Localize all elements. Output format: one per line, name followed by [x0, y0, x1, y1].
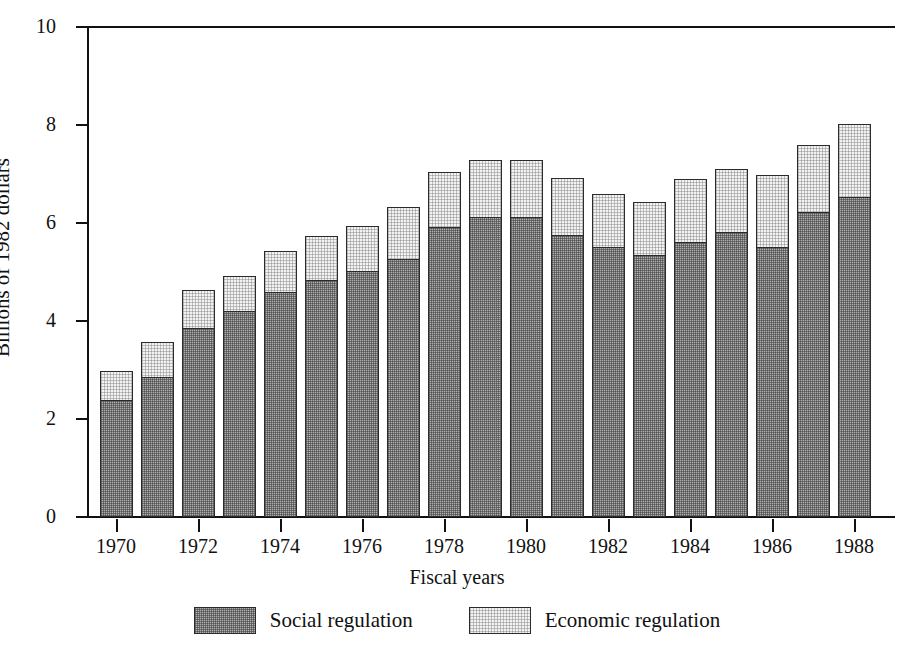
x-axis-tick-label: 1970 [96, 535, 136, 557]
bar-segment-social [100, 399, 133, 517]
bar-segment-social [838, 197, 871, 517]
y-axis-label: Billions of 1982 dollars [0, 0, 15, 518]
bar-segment-economic [797, 145, 830, 213]
bar-group [223, 27, 256, 517]
bar-group [674, 27, 707, 517]
bar-segment-social [223, 311, 256, 517]
y-axis-tick-label: 2 [16, 408, 56, 428]
bar-group [551, 27, 584, 517]
bar-segment-social [141, 377, 174, 517]
bar-segment-social [510, 216, 543, 517]
legend-item[interactable]: Social regulation [194, 607, 413, 634]
bar-segment-social [715, 231, 748, 517]
bar-segment-economic [838, 124, 871, 199]
bar-segment-economic [469, 160, 502, 218]
bar-group [141, 27, 174, 517]
bar-group [592, 27, 625, 517]
bar-group [756, 27, 789, 517]
x-axis-tick [690, 519, 692, 532]
plot-area: 0246810197019721974197619781980198219841… [88, 27, 894, 517]
bar-segment-social [633, 254, 666, 517]
bar-segment-economic [141, 342, 174, 379]
y-axis-tick-label: 10 [16, 16, 56, 36]
bar-segment-economic [551, 178, 584, 236]
bar-group [510, 27, 543, 517]
x-axis-tick-label: 1978 [424, 535, 464, 557]
x-axis-tick [854, 519, 856, 532]
bar-group [346, 27, 379, 517]
x-axis-tick-label: 1980 [506, 535, 546, 557]
bar-segment-social [182, 327, 215, 517]
x-axis-tick [608, 519, 610, 532]
bar-segment-social [264, 292, 297, 517]
y-axis-tick [76, 124, 88, 126]
legend-item[interactable]: Economic regulation [469, 607, 721, 634]
y-axis-tick [76, 26, 88, 28]
bar-segment-social [428, 226, 461, 517]
bar-segment-economic [715, 169, 748, 233]
x-axis-tick [280, 519, 282, 532]
bar-segment-economic [633, 202, 666, 256]
x-axis-tick-label: 1976 [342, 535, 382, 557]
bar-segment-social [756, 246, 789, 517]
x-axis-tick [526, 519, 528, 532]
chart-legend: Social regulationEconomic regulation [0, 607, 914, 634]
bar-segment-economic [428, 172, 461, 228]
bar-segment-social [551, 234, 584, 517]
x-axis-tick-label: 1982 [588, 535, 628, 557]
bar-segment-social [674, 241, 707, 517]
y-axis-tick [76, 222, 88, 224]
bar-segment-economic [182, 290, 215, 329]
bar-group [797, 27, 830, 517]
stacked-bar-chart: 0246810197019721974197619781980198219841… [0, 0, 914, 652]
bar-segment-economic [223, 276, 256, 312]
x-axis-tick [116, 519, 118, 532]
y-axis-tick-label: 8 [16, 114, 56, 134]
bar-segment-economic [510, 160, 543, 217]
x-axis-tick-label: 1974 [260, 535, 300, 557]
y-axis-tick-label: 0 [16, 506, 56, 526]
y-axis-tick-label: 4 [16, 310, 56, 330]
social-swatch [194, 607, 256, 634]
bar-segment-economic [674, 179, 707, 243]
bar-segment-economic [592, 194, 625, 248]
y-axis-tick [76, 320, 88, 322]
x-axis-tick [198, 519, 200, 532]
bar-group [387, 27, 420, 517]
y-axis-tick-label: 6 [16, 212, 56, 232]
x-axis-label: Fiscal years [0, 566, 914, 589]
bar-group [428, 27, 461, 517]
bar-segment-economic [387, 207, 420, 260]
x-axis-tick-label: 1988 [834, 535, 874, 557]
bar-segment-economic [264, 251, 297, 293]
x-axis-tick [444, 519, 446, 532]
bar-segment-social [305, 279, 338, 517]
bar-segment-social [469, 217, 502, 517]
legend-label: Economic regulation [545, 608, 721, 633]
bar-segment-social [346, 271, 379, 517]
bar-group [715, 27, 748, 517]
x-axis-tick [772, 519, 774, 532]
y-axis-tick [76, 516, 88, 518]
bar-group [100, 27, 133, 517]
bar-segment-economic [100, 371, 133, 401]
bar-segment-economic [756, 175, 789, 248]
x-axis-tick-label: 1984 [670, 535, 710, 557]
x-axis-tick-label: 1986 [752, 535, 792, 557]
bar-segment-social [592, 247, 625, 517]
bar-group [633, 27, 666, 517]
x-axis-tick [362, 519, 364, 532]
legend-label: Social regulation [270, 608, 413, 633]
bar-group [264, 27, 297, 517]
bar-segment-economic [305, 236, 338, 281]
economic-swatch [469, 607, 531, 634]
bar-segment-social [797, 211, 830, 517]
bar-group [838, 27, 871, 517]
bar-segment-economic [346, 226, 379, 272]
bar-segment-social [387, 259, 420, 517]
x-axis-tick-label: 1972 [178, 535, 218, 557]
bar-group [305, 27, 338, 517]
bar-group [182, 27, 215, 517]
bar-group [469, 27, 502, 517]
y-axis-tick [76, 418, 88, 420]
